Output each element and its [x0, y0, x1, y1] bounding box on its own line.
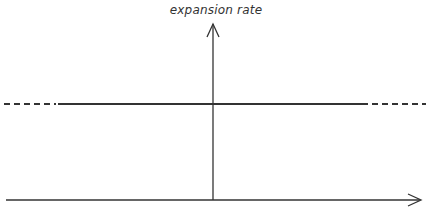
y-axis-label: expansion rate [166, 3, 266, 17]
diagram-canvas [0, 0, 428, 209]
expansion-rate-diagram: expansion rate [0, 0, 428, 209]
